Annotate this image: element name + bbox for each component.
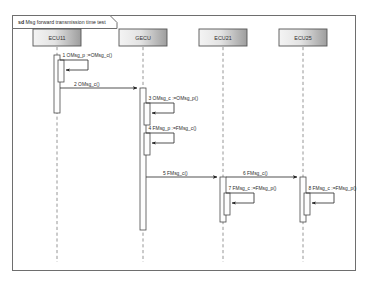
message-2-label: 2 OMsg_c(): [74, 82, 100, 87]
activation-bar-gecu-nested-2: [144, 133, 150, 155]
activation-bar-ecu11-nested: [58, 60, 64, 82]
lifeline-head-ecu25-label: ECU25: [294, 35, 311, 41]
lifeline-head-ecu25[interactable]: ECU25: [279, 29, 327, 46]
message-3-label: 3 OMsg_c :=OMsg_p(): [149, 96, 199, 101]
message-8-label: 8 FMsg_c :=FMsg_p(): [309, 186, 357, 191]
sequence-diagram-canvas: sd Msg forward transmission time test: [0, 0, 368, 289]
lifeline-head-ecu21[interactable]: ECU21: [199, 29, 247, 46]
activation-bar-ecu25-nested: [304, 193, 310, 215]
lifeline-head-ecu11-label: ECU11: [49, 35, 66, 41]
message-1-label: 1 OMsg_p :=OMsg_c(): [63, 53, 113, 58]
message-5-label: 5 FMsg_c(): [163, 171, 188, 176]
frame-title: Msg forward transmission time test: [26, 19, 107, 25]
frame-keyword: sd: [18, 19, 24, 25]
lifeline-head-ecu11[interactable]: ECU11: [33, 29, 81, 46]
message-6-label: 6 FMsg_c(): [243, 171, 268, 176]
message-7-label: 7 FMsg_c :=FMsg_p(): [229, 186, 277, 191]
message-4-label: 4 FMsg_p :=FMsg_c(): [149, 126, 197, 131]
lifeline-head-gecu-label: GECU: [135, 35, 151, 41]
lifeline-head-ecu21-label: ECU21: [214, 35, 231, 41]
activation-bar-ecu21-nested: [224, 193, 230, 215]
lifeline-head-gecu[interactable]: GECU: [119, 29, 167, 46]
activation-bar-gecu-nested-1: [144, 103, 150, 125]
